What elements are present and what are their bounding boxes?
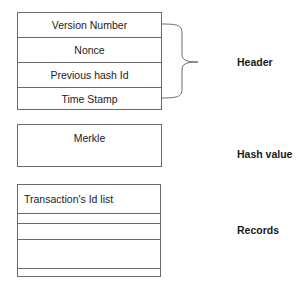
record-row [18,269,160,276]
hash-value-label: Hash value [237,148,292,160]
record-row [18,224,160,240]
header-label: Header [237,56,273,68]
records-block: Transaction's Id list [17,184,161,277]
record-row [18,214,160,224]
transaction-id-list-label: Transaction's Id list [24,193,113,205]
merkle-label: Merkle [74,132,106,144]
record-row [18,240,160,269]
transaction-id-list-field: Transaction's Id list [18,185,160,214]
merkle-field: Merkle [18,125,161,166]
hash-block: Merkle [17,124,162,167]
records-label: Records [237,224,279,236]
